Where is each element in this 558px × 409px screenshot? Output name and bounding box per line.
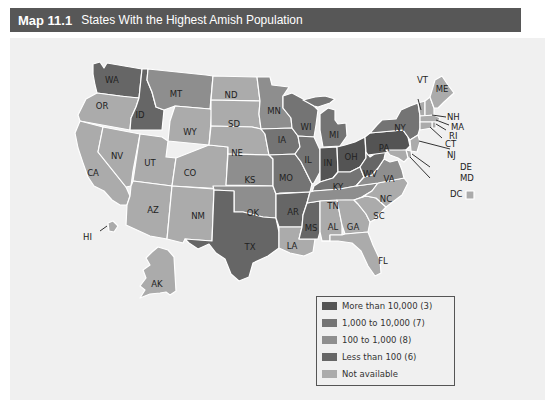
label-ct: CT [445, 139, 457, 149]
label-la: LA [287, 241, 298, 251]
label-de: DE [460, 162, 472, 172]
legend-swatch [322, 336, 337, 344]
label-sd: SD [228, 119, 240, 129]
label-or: OR [96, 101, 109, 111]
legend-label: Not available [342, 369, 398, 379]
state-ct [420, 122, 432, 130]
label-wi: WI [301, 122, 312, 132]
label-il: IL [304, 155, 312, 165]
label-co: CO [184, 168, 197, 178]
label-ny: NY [394, 123, 406, 133]
label-nm: NM [191, 211, 205, 221]
state-ak [140, 247, 176, 298]
label-vt: VT [417, 75, 429, 85]
legend-label: 1,000 to 10,000 (7) [342, 318, 425, 328]
label-ar: AR [287, 207, 299, 217]
label-ks: KS [245, 175, 256, 185]
legend-label: 100 to 1,000 (8) [342, 335, 411, 345]
label-az: AZ [147, 205, 159, 215]
legend-label: More than 10,000 (3) [342, 301, 432, 311]
label-pa: PA [379, 143, 390, 153]
label-ak: AK [151, 279, 163, 289]
state-dc [466, 191, 474, 199]
legend-swatch [322, 370, 337, 378]
label-fl: FL [378, 256, 388, 266]
label-wv: WV [363, 169, 377, 179]
label-wy: WY [183, 127, 197, 137]
label-nh: NH [447, 112, 460, 122]
legend-label: Less than 100 (6) [342, 352, 416, 362]
label-ga: GA [347, 222, 360, 232]
label-wa: WA [105, 75, 119, 85]
label-mi: MI [329, 130, 339, 140]
state-mi [320, 108, 347, 147]
label-nd: ND [225, 90, 238, 100]
label-ca: CA [87, 168, 99, 178]
state-fl [322, 232, 381, 276]
map-legend: More than 10,000 (3) 1,000 to 10,000 (7)… [316, 296, 455, 386]
label-dc: DC [450, 189, 463, 199]
legend-swatch [322, 302, 337, 310]
label-me: ME [436, 84, 449, 94]
legend-item-1000-to-10000: 1,000 to 10,000 (7) [317, 314, 454, 331]
label-md: MD [460, 173, 474, 183]
us-map: WA OR CA ID NV MT WY UT CO AZ NM ND SD N… [0, 0, 558, 409]
label-ne: NE [231, 148, 243, 158]
label-ms: MS [305, 223, 318, 233]
label-va: VA [383, 174, 394, 184]
legend-item-less-than-100: Less than 100 (6) [317, 348, 454, 365]
state-hi [108, 221, 118, 232]
label-mt: MT [170, 89, 183, 99]
label-nj: NJ [447, 150, 456, 160]
label-hi: HI [83, 232, 92, 242]
legend-swatch [322, 319, 337, 327]
state-co [172, 145, 228, 189]
legend-item-more-than-10000: More than 10,000 (3) [317, 297, 454, 314]
label-tn: TN [326, 201, 339, 211]
label-id: ID [135, 110, 145, 120]
label-nc: NC [380, 194, 392, 204]
label-sc: SC [373, 211, 384, 221]
label-oh: OH [344, 152, 357, 162]
label-nv: NV [111, 151, 123, 161]
label-tx: TX [243, 242, 255, 252]
label-in: IN [324, 158, 333, 168]
label-ky: KY [333, 182, 344, 192]
label-al: AL [328, 222, 339, 232]
label-ia: IA [278, 135, 287, 145]
legend-item-100-to-1000: 100 to 1,000 (8) [317, 331, 454, 348]
label-ut: UT [144, 158, 156, 168]
label-mo: MO [279, 173, 293, 183]
state-wy [168, 106, 212, 145]
label-mn: MN [267, 106, 281, 116]
legend-swatch [322, 353, 337, 361]
label-ok: OK [247, 208, 260, 218]
legend-item-not-available: Not available [317, 365, 454, 382]
